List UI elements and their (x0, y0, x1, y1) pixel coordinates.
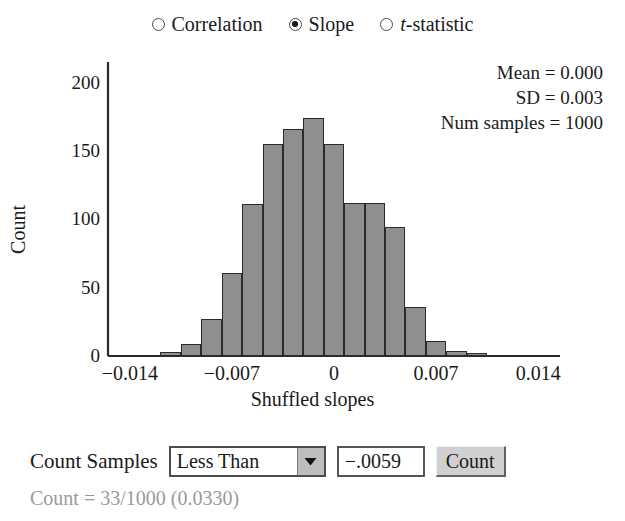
histogram-bar (222, 273, 242, 356)
chevron-down-glyph (304, 457, 317, 466)
count-result-text: Count = 33/1000 (0.0330) (30, 487, 239, 510)
histogram-bar (263, 144, 283, 356)
x-tick-label: 0 (329, 362, 339, 385)
radio-option-correlation[interactable]: Correlation (152, 14, 263, 34)
histogram-bar (140, 355, 160, 357)
histogram-plot: Mean = 0.000 SD = 0.003 Num samples = 10… (0, 50, 625, 400)
operator-dropdown[interactable]: Less Than (169, 446, 326, 477)
count-samples-label: Count Samples (30, 449, 158, 474)
histogram-bar (242, 204, 262, 356)
radio-icon-slope[interactable] (289, 18, 302, 31)
x-tick-label: 0.014 (516, 362, 561, 385)
count-controls: Count Samples Less Than −.0059 Count (30, 446, 506, 477)
x-tick-label: −0.007 (204, 362, 260, 385)
y-tick-label: 200 (72, 72, 101, 94)
threshold-input-value: −.0059 (345, 450, 401, 473)
x-axis-title: Shuffled slopes (0, 388, 625, 411)
histogram-bar (283, 129, 303, 356)
histogram-bar (405, 307, 425, 356)
operator-dropdown-value: Less Than (171, 448, 297, 475)
statistic-selector: Correlation Slope t-statistic (0, 14, 625, 34)
histogram-bar (385, 227, 405, 356)
x-tick-label: 0.007 (414, 362, 459, 385)
count-button-label: Count (446, 450, 495, 473)
histogram-bar (324, 144, 344, 356)
histogram-bar (201, 319, 221, 356)
histogram-bar (426, 341, 446, 356)
histogram-bar (160, 352, 180, 356)
histogram-bar (344, 203, 364, 356)
radio-label-slope: Slope (309, 14, 355, 34)
histogram-bar (181, 344, 201, 356)
radio-icon-correlation[interactable] (152, 18, 165, 31)
histogram-bar (467, 353, 487, 356)
histogram-bar (446, 351, 466, 356)
count-button[interactable]: Count (436, 446, 506, 477)
y-tick-label: 0 (91, 345, 101, 367)
chevron-down-icon[interactable] (297, 448, 324, 475)
threshold-input[interactable]: −.0059 (337, 446, 425, 477)
histogram-bar (365, 203, 385, 356)
x-tick-label: −0.014 (102, 362, 158, 385)
y-tick-label: 100 (72, 208, 101, 230)
histogram-bar (303, 118, 323, 356)
radio-icon-t-statistic[interactable] (380, 18, 393, 31)
radio-label-t-statistic: t-statistic (400, 14, 473, 34)
y-tick-label: 150 (72, 140, 101, 162)
y-tick-label: 50 (81, 277, 100, 299)
radio-label-correlation: Correlation (172, 14, 263, 34)
radio-option-t-statistic[interactable]: t-statistic (380, 14, 473, 34)
radio-option-slope[interactable]: Slope (289, 14, 355, 34)
